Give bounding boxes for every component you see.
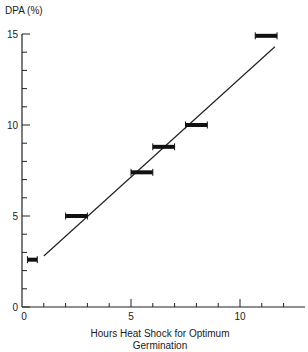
x-axis-label-line1: Hours Heat Shock for Optimum [60, 328, 260, 340]
data-range-bar [66, 214, 88, 218]
chart-plot-area: 0510150510 [0, 0, 308, 352]
y-tick-label: 5 [12, 211, 18, 222]
y-tick-label: 10 [7, 120, 19, 131]
x-axis-label: Hours Heat Shock for Optimum Germination [60, 328, 260, 352]
data-range-bar [153, 145, 175, 149]
x-tick-label: 10 [234, 311, 246, 322]
x-tick-label: 0 [21, 311, 27, 322]
data-range-bar [255, 34, 277, 38]
x-axis-label-line2: Germination [60, 340, 260, 352]
data-range-bar [27, 258, 37, 262]
fitted-line [44, 47, 275, 256]
data-range-bar [131, 170, 153, 174]
y-tick-label: 15 [7, 29, 19, 40]
y-tick-label: 0 [12, 302, 18, 313]
x-tick-label: 5 [128, 311, 134, 322]
data-range-bar [186, 123, 208, 127]
